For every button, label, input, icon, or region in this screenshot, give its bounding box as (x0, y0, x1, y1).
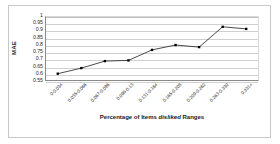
data-point-marker (127, 59, 129, 61)
x-axis-tick-label-wrap: 0.131-0.164 (138, 82, 159, 103)
y-axis-tick-label: 0.8 (1, 42, 43, 47)
data-point-marker (104, 60, 106, 62)
x-axis-tick-label-wrap: 0.035-0.066 (66, 82, 87, 103)
x-axis-tick-label: 0.263-0.330 (209, 82, 230, 103)
series-markers (57, 26, 248, 75)
x-axis-title-after: Ranges (181, 114, 204, 120)
x-axis-tick-label-wrap: 0.067-0.096 (90, 82, 111, 103)
data-point-marker (57, 73, 59, 75)
x-axis-tick-label: 0.131-0.164 (138, 82, 159, 103)
x-axis-tick-label-wrap: 0.209-0.262 (185, 82, 206, 103)
y-axis-tick-label: 1 (1, 13, 43, 18)
data-point-marker (245, 28, 247, 30)
data-point-marker (151, 49, 153, 51)
x-axis-tick-label: 0.209-0.262 (185, 82, 206, 103)
y-axis-tick-label: 0.75 (1, 50, 43, 55)
data-point-marker (221, 26, 223, 28)
y-axis-tick-label: 0.85 (1, 35, 43, 40)
x-axis-tick-label-wrap: 0-0.034 (49, 82, 64, 97)
x-axis-title-before: Percentage of Items (100, 114, 159, 120)
x-axis-tick-label-wrap: 0.096-0.13 (116, 82, 135, 101)
y-axis-tick-label: 0.9 (1, 28, 43, 33)
x-axis-tick-label-wrap: 0.263-0.330 (209, 82, 230, 103)
data-point-marker (198, 46, 200, 48)
chart-figure: MAE 10.950.90.850.80.750.70.650.60.55 0-… (0, 0, 280, 144)
x-axis-tick-label-wrap: 0.165-0.208 (161, 82, 182, 103)
plot-area (45, 16, 259, 81)
x-axis-tick-label: 0.067-0.096 (90, 82, 111, 103)
y-axis-tick-label: 0.6 (1, 71, 43, 76)
data-point-marker (174, 44, 176, 46)
data-point-marker (80, 67, 82, 69)
x-axis-tick-label: 0.096-0.13 (116, 82, 135, 101)
x-axis-tick-label-wrap: 0.331+ (240, 82, 254, 96)
y-axis-tick-label: 0.95 (1, 21, 43, 26)
y-axis-tick-label: 0.65 (1, 64, 43, 69)
x-axis-tick-label: 0.165-0.208 (161, 82, 182, 103)
x-axis-tick-labels: 0-0.0340.035-0.0660.067-0.0960.096-0.130… (45, 82, 259, 114)
x-axis-title-italic: disliked (159, 114, 181, 120)
x-axis-tick-label: 0.331+ (240, 82, 254, 96)
y-axis-tick-labels: 10.950.90.850.80.750.70.650.60.55 (0, 16, 43, 81)
x-axis-tick-label: 0-0.034 (49, 82, 64, 97)
y-axis-tick-label: 0.55 (1, 78, 43, 83)
line-series (46, 17, 258, 80)
x-axis-title: Percentage of Items disliked Ranges (45, 114, 259, 120)
y-axis-tick-label: 0.7 (1, 57, 43, 62)
x-axis-tick-label: 0.035-0.066 (66, 82, 87, 103)
